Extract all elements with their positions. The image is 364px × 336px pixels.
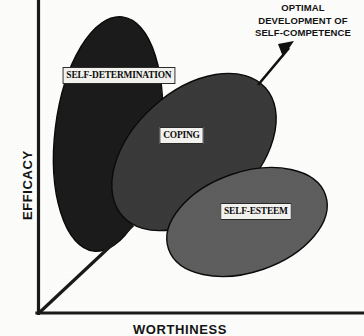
annotation-line-2: DEVELOPMENT OF [244, 15, 362, 28]
region-label-self-determination: SELF-DETERMINATION [63, 67, 176, 84]
diagram-graphics [0, 0, 364, 336]
optimal-arrow-head [278, 41, 294, 57]
y-axis-label: EFFICACY [20, 150, 35, 220]
annotation-line-3: SELF-COMPETENCE [244, 27, 362, 40]
optimal-development-annotation: OPTIMAL DEVELOPMENT OF SELF-COMPETENCE [244, 2, 362, 40]
x-axis-label: WORTHINESS [133, 322, 227, 336]
diagram-canvas: EFFICACY WORTHINESS SELF-DETERMINATION C… [0, 0, 364, 336]
region-label-coping: COPING [159, 127, 203, 144]
region-label-self-esteem: SELF-ESTEEM [220, 203, 291, 220]
annotation-line-1: OPTIMAL [244, 2, 362, 15]
